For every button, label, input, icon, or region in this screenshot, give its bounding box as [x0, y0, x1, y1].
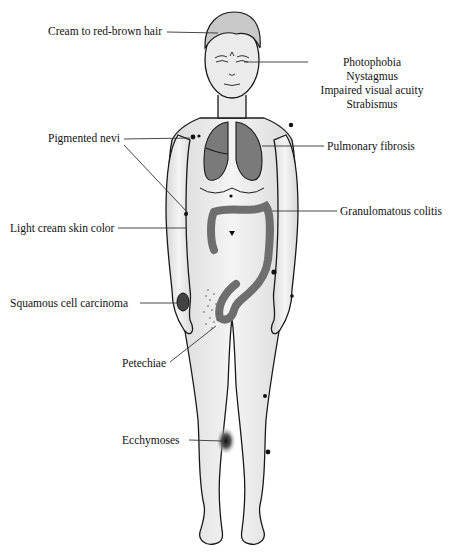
label-petechiae: Petechiae [122, 356, 166, 370]
label-photophobia: Photophobia [308, 55, 436, 69]
squamous-cell-lesion [177, 293, 189, 311]
label-pulmonary-fibrosis: Pulmonary fibrosis [327, 139, 415, 153]
label-ecchymoses: Ecchymoses [122, 433, 179, 447]
label-pigmented-nevi: Pigmented nevi [48, 131, 120, 145]
label-strabismus: Strabismus [308, 97, 436, 111]
label-skin-color: Light cream skin color [10, 221, 114, 235]
label-squamous-cell-carcinoma: Squamous cell carcinoma [10, 296, 128, 310]
label-nystagmus: Nystagmus [308, 69, 436, 83]
label-impaired-visual-acuity: Impaired visual acuity [308, 83, 436, 97]
label-eye-findings: Photophobia Nystagmus Impaired visual ac… [308, 55, 436, 111]
label-granulomatous-colitis: Granulomatous colitis [340, 204, 442, 218]
anatomy-figure: Cream to red-brown hair Photophobia Nyst… [0, 0, 454, 557]
label-hair: Cream to red-brown hair [48, 24, 162, 38]
